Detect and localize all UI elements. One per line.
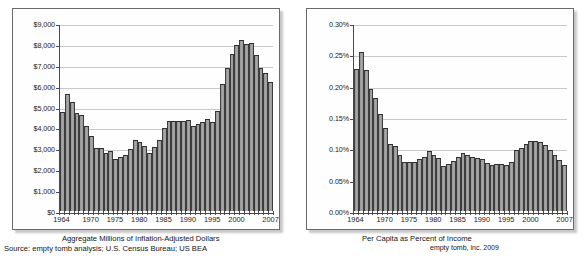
y-axis-tick-label: 0.00%	[329, 209, 349, 216]
x-axis-tick-label: 1970	[82, 215, 98, 224]
chart-panel-aggregate-dollars: $0$1,000$2,000$3,000$4,000$5,000$6,000$7…	[12, 8, 280, 230]
x-axis-tick-label: 1964	[347, 215, 363, 224]
y-axis-labels-left: $0$1,000$2,000$3,000$4,000$5,000$6,000$7…	[13, 9, 59, 229]
y-axis-tick-label: $9,000	[34, 21, 55, 28]
y-axis-tick-label: $3,000	[34, 147, 55, 154]
x-axis-tick-label: 1985	[449, 215, 465, 224]
y-axis-labels-right: 0.00%0.05%0.10%0.15%0.20%0.25%0.30%	[307, 9, 353, 229]
chart-credit-right: empty tomb, inc. 2009	[430, 243, 499, 252]
x-axis-tick-label: 2007	[556, 215, 572, 224]
y-axis-tick-label: $1,000	[34, 189, 55, 196]
x-axis-tick-label: 2000	[228, 215, 244, 224]
plot-area-left	[59, 25, 273, 211]
chart-panel-per-capita-percent: 0.00%0.05%0.10%0.15%0.20%0.25%0.30% 1964…	[306, 8, 574, 230]
chart-title-left: Aggregate Millions of Inflation-Adjusted…	[62, 234, 219, 243]
x-axis-ticks-right	[353, 207, 567, 211]
y-axis-tick-label: $5,000	[34, 105, 55, 112]
x-axis-tick-label: 1975	[401, 215, 417, 224]
bar	[268, 82, 273, 211]
plot-area-right	[353, 25, 567, 211]
x-axis-tick-label: 2000	[522, 215, 538, 224]
x-axis-labels-right: 196419701975198019851990199520002007	[353, 215, 567, 227]
chart-source-left: Source: empty tomb analysis; U.S. Census…	[4, 244, 207, 253]
bar-series-right	[354, 25, 567, 211]
x-axis-tick-label: 1980	[131, 215, 147, 224]
y-axis-tick-label: $7,000	[34, 63, 55, 70]
x-axis-tick-label: 1995	[498, 215, 514, 224]
y-axis-tick-label: $6,000	[34, 84, 55, 91]
bar-series-left	[60, 25, 273, 211]
x-axis-tick-label: 2007	[262, 215, 278, 224]
y-axis-tick-label: 0.25%	[329, 53, 349, 60]
x-axis-labels-left: 196419701975198019851990199520002007	[59, 215, 273, 227]
y-axis-tick-label: 0.30%	[329, 21, 349, 28]
y-axis-tick-label: 0.15%	[329, 115, 349, 122]
y-axis-tick-label: 0.10%	[329, 147, 349, 154]
chart-title-right: Per Capita as Percent of Income	[362, 234, 472, 243]
x-axis-tick-label: 1964	[53, 215, 69, 224]
figure-container: $0$1,000$2,000$3,000$4,000$5,000$6,000$7…	[0, 0, 588, 276]
y-axis-tick-label: $2,000	[34, 168, 55, 175]
x-axis-tick-label: 1990	[474, 215, 490, 224]
bar	[562, 165, 567, 211]
x-axis-tick-label: 1975	[107, 215, 123, 224]
y-axis-tick-label: 0.05%	[329, 178, 349, 185]
x-axis-tick-label: 1980	[425, 215, 441, 224]
y-axis-tick-label: $4,000	[34, 126, 55, 133]
x-axis-tick-label: 1970	[376, 215, 392, 224]
x-axis-tick-label: 1990	[180, 215, 196, 224]
x-axis-tick-label: 1995	[204, 215, 220, 224]
x-axis-tick-label: 1985	[155, 215, 171, 224]
y-axis-tick-label: 0.20%	[329, 84, 349, 91]
x-axis-ticks-left	[59, 207, 273, 211]
y-axis-tick-label: $8,000	[34, 42, 55, 49]
